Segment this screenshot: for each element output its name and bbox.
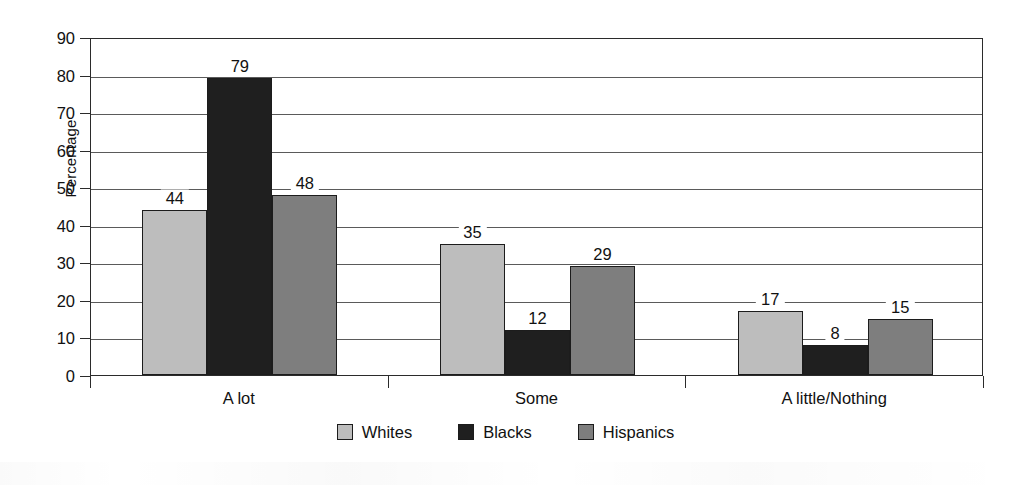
legend-swatch-hispanics	[578, 424, 594, 440]
bar-blacks-1	[505, 330, 570, 375]
y-tick-label-90: 90	[15, 30, 75, 47]
x-category-label-2: A little/Nothing	[781, 390, 886, 407]
scan-artifact	[0, 462, 1011, 485]
x-category-label-0: A lot	[223, 390, 255, 407]
y-tick-label-60: 60	[15, 142, 75, 159]
bar-value-whites-1: 35	[458, 223, 486, 240]
bar-hispanics-0	[272, 195, 337, 375]
y-tick-label-0: 0	[15, 368, 75, 385]
legend-swatch-whites	[337, 424, 353, 440]
legend-item-whites[interactable]: Whites	[337, 424, 412, 441]
bar-whites-1	[440, 244, 505, 375]
bar-blacks-2	[803, 345, 868, 375]
bar-value-hispanics-0: 48	[291, 174, 319, 191]
x-category-label-1: Some	[515, 390, 558, 407]
chart-legend: WhitesBlacksHispanics	[0, 424, 1011, 441]
bar-value-whites-2: 17	[756, 291, 784, 308]
legend-item-hispanics[interactable]: Hispanics	[578, 424, 675, 441]
y-tick-label-40: 40	[15, 218, 75, 235]
legend-label-hispanics: Hispanics	[603, 424, 675, 441]
legend-item-blacks[interactable]: Blacks	[458, 424, 532, 441]
x-tick-mark-1	[685, 376, 686, 388]
bar-value-blacks-2: 8	[826, 324, 845, 341]
y-tick-label-70: 70	[15, 105, 75, 122]
x-tick-mark-origin	[90, 376, 91, 388]
bar-whites-0	[142, 210, 207, 375]
plot-area: 44794835122917815	[90, 38, 983, 376]
bar-hispanics-2	[868, 319, 933, 375]
y-tick-label-20: 20	[15, 293, 75, 310]
bar-value-whites-0: 44	[161, 189, 189, 206]
y-tick-label-30: 30	[15, 255, 75, 272]
bar-blacks-0	[207, 78, 272, 375]
bar-value-blacks-1: 12	[523, 309, 551, 326]
y-tick-label-50: 50	[15, 180, 75, 197]
legend-swatch-blacks	[458, 424, 474, 440]
bar-value-hispanics-2: 15	[886, 298, 914, 315]
bar-hispanics-1	[570, 266, 635, 375]
bar-value-blacks-0: 79	[226, 58, 254, 75]
legend-label-whites: Whites	[362, 424, 412, 441]
bar-whites-2	[738, 311, 803, 375]
y-tick-label-10: 10	[15, 330, 75, 347]
x-tick-mark-0	[388, 376, 389, 388]
bar-chart-figure: Percentage 0102030405060708090 447948351…	[0, 0, 1011, 485]
y-tick-label-80: 80	[15, 67, 75, 84]
x-tick-mark-2	[983, 376, 984, 388]
legend-label-blacks: Blacks	[483, 424, 532, 441]
bar-value-hispanics-1: 29	[588, 246, 616, 263]
